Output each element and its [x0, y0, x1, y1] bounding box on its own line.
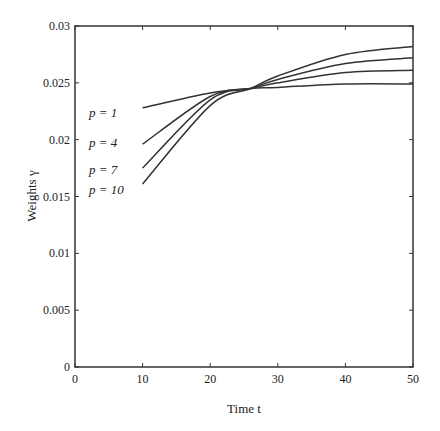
- y-tick-label: 0.015: [43, 190, 70, 204]
- y-tick-label: 0: [64, 360, 70, 374]
- x-tick-label: 10: [137, 372, 149, 386]
- series-label: p = 10: [88, 182, 124, 197]
- x-tick-label: 50: [407, 372, 419, 386]
- x-tick-label: 40: [339, 372, 351, 386]
- y-tick-label: 0.025: [43, 76, 70, 90]
- plot-area: 0102030405000.0050.010.0150.020.0250.03p…: [43, 19, 419, 386]
- x-axis-label: Time t: [227, 401, 261, 416]
- series-line: [143, 58, 413, 168]
- series-label: p = 4: [88, 135, 118, 150]
- y-tick-label: 0.02: [49, 133, 70, 147]
- series-label: p = 1: [88, 105, 117, 120]
- y-tick-label: 0.03: [49, 19, 70, 33]
- axes-frame: [75, 26, 413, 367]
- y-tick-label: 0.005: [43, 303, 70, 317]
- y-tick-label: 0.01: [49, 246, 70, 260]
- x-tick-label: 30: [272, 372, 284, 386]
- x-tick-label: 0: [72, 372, 78, 386]
- series-label: p = 7: [88, 162, 118, 177]
- series-line: [143, 46, 413, 184]
- series-line: [143, 84, 413, 108]
- x-tick-label: 20: [204, 372, 216, 386]
- series-line: [143, 70, 413, 144]
- line-chart: 0102030405000.0050.010.0150.020.0250.03p…: [0, 0, 440, 431]
- y-axis-label: Weights γ: [24, 170, 39, 222]
